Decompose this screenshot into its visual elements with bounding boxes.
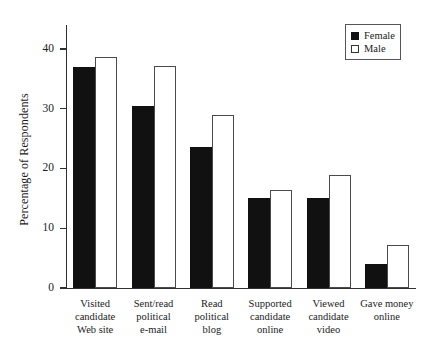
x-category-label: Gave money online	[352, 297, 422, 323]
legend-label-male: Male	[364, 43, 386, 54]
y-tick-label: 10	[14, 222, 54, 234]
bar-female-2	[190, 147, 212, 288]
y-tick-label: 30	[14, 103, 54, 115]
legend: Female Male	[345, 24, 401, 60]
bar-male-2	[212, 115, 234, 288]
bar-male-0	[95, 57, 117, 288]
bar-male-3	[270, 190, 292, 288]
bar-male-5	[387, 245, 409, 288]
y-tick-label: 0	[14, 282, 54, 294]
bar-female-1	[132, 106, 154, 288]
legend-swatch-male-icon	[351, 45, 359, 53]
bar-female-0	[73, 67, 95, 288]
bar-male-1	[154, 66, 176, 288]
bar-female-5	[365, 264, 387, 289]
legend-swatch-female-icon	[351, 32, 359, 40]
bar-chart: Percentage of Respondents 010203040 Visi…	[0, 0, 428, 348]
y-tick-label: 20	[14, 162, 54, 174]
bar-male-4	[329, 175, 351, 288]
legend-item-male: Male	[351, 42, 396, 55]
bar-female-3	[248, 198, 270, 288]
plot-area	[66, 25, 416, 288]
y-tick-label: 40	[14, 43, 54, 55]
legend-label-female: Female	[364, 30, 395, 41]
legend-item-female: Female	[351, 29, 396, 42]
bar-female-4	[307, 198, 329, 288]
